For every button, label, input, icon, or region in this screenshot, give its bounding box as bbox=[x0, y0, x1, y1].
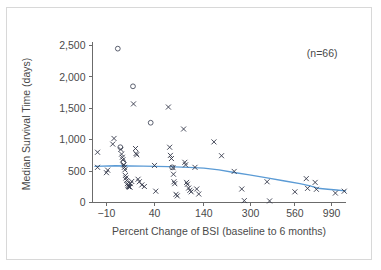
y-tick-label: 0 bbox=[80, 196, 86, 208]
scatter-plot: 05001,0001,5002,0002,500−104014030056099… bbox=[0, 0, 381, 270]
x-tick-label: −10 bbox=[98, 207, 116, 219]
data-point-x bbox=[313, 180, 318, 185]
data-point-x bbox=[333, 191, 338, 196]
x-tick-label: 990 bbox=[323, 207, 341, 219]
y-tick-label: 2,500 bbox=[59, 39, 85, 51]
x-axis-title: Percent Change of BSI (baseline to 6 mon… bbox=[112, 225, 326, 237]
data-point-x bbox=[152, 163, 157, 168]
data-point-x bbox=[133, 146, 138, 151]
y-tick-label: 1,000 bbox=[59, 133, 85, 145]
data-point-x bbox=[167, 145, 172, 150]
data-point-x bbox=[304, 176, 309, 181]
data-point-x bbox=[219, 153, 224, 158]
data-point-x bbox=[196, 192, 201, 197]
sample-size-annotation: (n=66) bbox=[307, 47, 338, 59]
data-points bbox=[95, 46, 347, 203]
data-point-x bbox=[211, 139, 216, 144]
data-point-circle bbox=[148, 120, 153, 125]
x-tick-label: 300 bbox=[242, 207, 260, 219]
data-point-x bbox=[95, 150, 100, 155]
trend-line bbox=[95, 166, 345, 191]
data-point-x bbox=[171, 172, 176, 177]
data-point-x bbox=[153, 189, 158, 194]
data-point-x bbox=[239, 187, 244, 192]
y-tick-label: 2,000 bbox=[59, 71, 85, 83]
y-axis-title: Median Survival Time (days) bbox=[20, 58, 32, 190]
data-point-x bbox=[142, 184, 147, 189]
figure-container: 05001,0001,5002,0002,500−104014030056099… bbox=[0, 0, 381, 270]
data-point-x bbox=[194, 187, 199, 192]
data-point-x bbox=[95, 165, 100, 170]
x-tick-label: 40 bbox=[149, 207, 161, 219]
data-point-circle bbox=[115, 46, 120, 51]
data-point-circle bbox=[131, 84, 136, 89]
data-point-x bbox=[112, 136, 117, 141]
y-tick-label: 1,500 bbox=[59, 102, 85, 114]
x-tick-label: 140 bbox=[195, 207, 213, 219]
axis-labels: 05001,0001,5002,0002,500−104014030056099… bbox=[20, 39, 340, 236]
data-point-x bbox=[292, 189, 297, 194]
data-point-x bbox=[131, 101, 136, 106]
data-point-x bbox=[175, 193, 180, 198]
x-tick-label: 560 bbox=[286, 207, 304, 219]
data-point-x bbox=[181, 127, 186, 132]
y-tick-label: 500 bbox=[68, 165, 86, 177]
trend-line-path bbox=[95, 166, 345, 191]
data-point-x bbox=[265, 179, 270, 184]
data-point-x bbox=[305, 186, 310, 191]
data-point-x bbox=[166, 105, 171, 110]
data-point-x bbox=[110, 142, 115, 147]
